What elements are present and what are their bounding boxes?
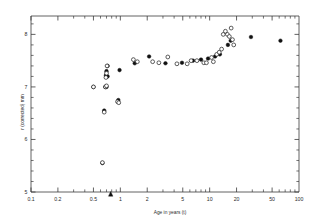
y-tick-label: 8 — [25, 31, 28, 37]
data-point-open — [175, 62, 179, 66]
x-axis-title: Age in years (t) — [154, 210, 187, 215]
data-points-group — [92, 26, 283, 165]
data-point-filled — [199, 58, 203, 62]
data-point-filled — [180, 61, 184, 65]
x-tick-label: 2 — [146, 196, 149, 202]
data-point-filled — [279, 39, 283, 43]
data-point-filled — [147, 55, 151, 59]
data-point-filled — [118, 68, 122, 72]
data-point-open — [102, 110, 106, 114]
y-tick-label: 5 — [25, 189, 28, 195]
x-tick-label: 10 — [207, 196, 213, 202]
x-tick-label: 100 — [295, 196, 304, 202]
data-point-open — [166, 55, 170, 59]
axes-group — [31, 16, 299, 192]
data-point-open — [105, 64, 109, 68]
data-point-open — [157, 61, 161, 65]
data-point-open — [229, 26, 233, 30]
data-point-open — [151, 60, 155, 64]
x-tick-label: 0.1 — [27, 196, 34, 202]
data-point-filled — [249, 35, 253, 39]
data-point-open — [104, 76, 108, 80]
y-axis-title: r (corrected) mm — [20, 94, 25, 129]
y-tick-label: 7 — [25, 84, 28, 90]
data-point-open — [131, 58, 135, 62]
data-point-open — [227, 35, 231, 39]
data-point-open — [105, 71, 109, 75]
data-point-open — [210, 56, 214, 60]
data-point-filled — [164, 61, 168, 65]
y-tick-label: 6 — [25, 136, 28, 142]
x-tick-label: 5 — [181, 196, 184, 202]
x-tick-label: 50 — [269, 196, 275, 202]
tick-labels-group: 0.10.20.51251020501005678 — [25, 31, 304, 201]
data-point-open — [195, 59, 199, 63]
scatter-plot-figure: 0.10.20.51251020501005678 Age in years (… — [0, 0, 309, 221]
data-point-open — [135, 60, 139, 64]
plot-canvas: 0.10.20.51251020501005678 Age in years (… — [0, 0, 309, 221]
data-point-open — [117, 101, 121, 105]
data-point-open — [232, 43, 236, 47]
data-point-open — [205, 61, 209, 65]
data-point-open — [189, 59, 193, 63]
x-tick-label: 0.5 — [90, 196, 97, 202]
data-point-open — [101, 161, 105, 165]
data-point-open — [92, 85, 96, 89]
data-point-open — [185, 62, 189, 66]
data-point-filled — [226, 43, 230, 47]
x-tick-label: 20 — [234, 196, 240, 202]
data-point-open — [105, 84, 109, 88]
x-tick-label: 0.2 — [54, 196, 61, 202]
axis-frame — [31, 16, 299, 192]
data-point-open — [231, 38, 235, 42]
data-point-open — [220, 47, 224, 51]
ticks-group — [31, 16, 299, 192]
x-tick-label: 1 — [119, 196, 122, 202]
data-point-open — [211, 60, 215, 64]
